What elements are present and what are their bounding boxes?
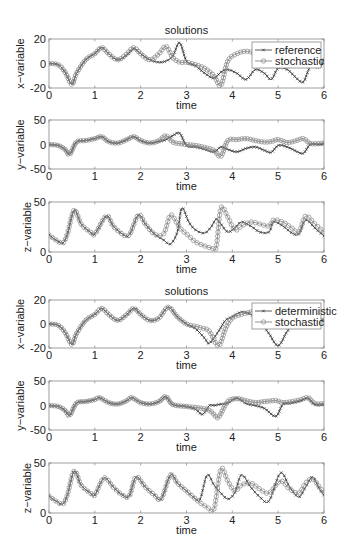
x-tick-label: 0 (46, 431, 52, 443)
plot-title: solutions (165, 285, 209, 297)
y-tick-label: 0 (40, 58, 46, 70)
y-tick-label: -20 (30, 342, 46, 354)
x-tick-label: 6 (321, 253, 327, 265)
x-tick-label: 1 (92, 170, 98, 182)
x-tick-label: 4 (229, 170, 235, 182)
subplot-6: 0123456050timez−variable (21, 457, 327, 536)
x-tick-label: 0 (46, 253, 52, 265)
y-tick-label: 0 (40, 507, 46, 519)
x-tick-label: 4 (229, 253, 235, 265)
x-tick-label: 2 (138, 253, 144, 265)
x-tick-label: 0 (46, 349, 52, 361)
x-tick-label: 6 (321, 431, 327, 443)
x-tick-label: 1 (92, 89, 98, 101)
x-axis-label: time (176, 359, 197, 371)
legend: deterministicstochastic (252, 303, 337, 329)
x-axis-label: time (176, 180, 197, 192)
x-axis-label: time (176, 524, 197, 536)
x-tick-label: 1 (92, 514, 98, 526)
x-tick-label: 2 (138, 431, 144, 443)
x-tick-label: 5 (275, 253, 281, 265)
y-axis-label: y−variable (14, 380, 26, 430)
y-tick-label: 20 (34, 294, 46, 306)
x-tick-label: 4 (229, 431, 235, 443)
y-tick-label: 20 (34, 33, 46, 45)
y-axis-label: x−variable (14, 299, 26, 349)
y-tick-label: 0 (40, 400, 46, 412)
y-tick-label: 0 (40, 246, 46, 258)
y-axis-label: z−variable (21, 202, 33, 252)
x-axis-label: time (176, 263, 197, 275)
y-tick-label: 0 (40, 139, 46, 151)
legend: referencestochastic (252, 42, 324, 68)
x-tick-label: 5 (275, 170, 281, 182)
x-tick-label: 0 (46, 170, 52, 182)
x-tick-label: 6 (321, 89, 327, 101)
y-tick-label: 50 (34, 196, 46, 208)
x-tick-label: 4 (229, 514, 235, 526)
x-tick-label: 1 (92, 253, 98, 265)
y-tick-label: 50 (34, 375, 46, 387)
subplot-2: 0123456-50050timey−variable (14, 114, 327, 192)
subplot-4: 0123456-20020timex−variablesolutionsdete… (14, 285, 337, 371)
y-tick-label: 50 (34, 457, 46, 469)
x-tick-label: 4 (229, 349, 235, 361)
x-tick-label: 6 (321, 514, 327, 526)
x-tick-label: 0 (46, 514, 52, 526)
figure: 0123456-20020timex−variablesolutionsrefe… (0, 0, 344, 557)
x-tick-label: 2 (138, 170, 144, 182)
y-tick-label: -50 (30, 424, 46, 436)
x-tick-label: 2 (138, 349, 144, 361)
y-tick-label: 50 (34, 114, 46, 126)
x-tick-label: 5 (275, 349, 281, 361)
x-axis-label: time (176, 441, 197, 453)
plot-title: solutions (165, 24, 209, 36)
axes-box (49, 202, 324, 252)
y-tick-label: 0 (40, 318, 46, 330)
subplot-1: 0123456-20020timex−variablesolutionsrefe… (14, 24, 327, 111)
x-tick-label: 1 (92, 431, 98, 443)
y-tick-label: -20 (30, 82, 46, 94)
x-tick-label: 4 (229, 89, 235, 101)
x-tick-label: 6 (321, 170, 327, 182)
x-tick-label: 5 (275, 89, 281, 101)
x-tick-label: 2 (138, 514, 144, 526)
y-axis-label: y−variable (14, 119, 26, 169)
x-tick-label: 1 (92, 349, 98, 361)
x-axis-label: time (176, 99, 197, 111)
y-axis-label: z−variable (21, 463, 33, 513)
y-axis-label: x−variable (14, 38, 26, 88)
x-tick-label: 5 (275, 514, 281, 526)
subplot-3: 0123456050timez−variable (21, 196, 327, 275)
x-tick-label: 5 (275, 431, 281, 443)
x-tick-label: 2 (138, 89, 144, 101)
x-tick-label: 0 (46, 89, 52, 101)
legend-entry: stochastic (275, 55, 324, 67)
subplot-5: 0123456-50050timey−variable (14, 375, 327, 453)
x-tick-label: 6 (321, 349, 327, 361)
legend-entry: stochastic (275, 316, 324, 328)
y-tick-label: -50 (30, 163, 46, 175)
